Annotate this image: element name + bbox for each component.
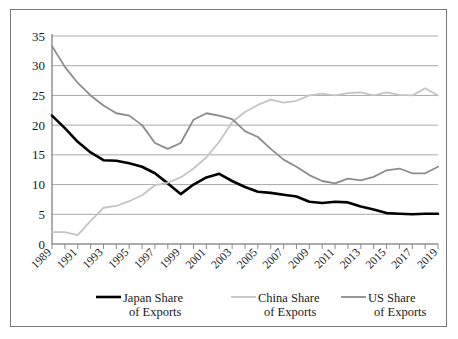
x-axis-tick-label: 2011 — [312, 246, 337, 271]
x-axis-tick-label: 1993 — [80, 246, 105, 271]
line-chart: 0510152025303519891991199319951997199920… — [11, 10, 446, 326]
y-axis-tick-label: 20 — [32, 118, 45, 133]
x-axis-tick-label: 1991 — [54, 246, 79, 271]
x-axis-tick-label: 2013 — [337, 246, 362, 271]
y-axis-tick-label: 35 — [32, 29, 45, 44]
chart-legend: Japan Shareof ExportsChina Shareof Expor… — [96, 291, 427, 320]
y-axis-tick-label: 10 — [32, 177, 45, 192]
y-axis-tick-label: 25 — [32, 88, 45, 103]
x-axis-tick-label: 1999 — [157, 246, 182, 271]
legend-label-line2-3: of Exports — [374, 305, 427, 319]
y-axis-tick-label: 5 — [39, 207, 46, 222]
x-axis-tick-label: 2003 — [209, 246, 234, 271]
x-axis-tick-label: 2015 — [363, 246, 388, 271]
x-axis-tick-label: 2005 — [235, 246, 260, 271]
x-axis-tick-label: 1997 — [132, 246, 157, 271]
legend-label-line1-2: China Share — [258, 291, 320, 305]
chart-figure: 0510152025303519891991199319951997199920… — [10, 9, 447, 327]
legend-label-line2-2: of Exports — [264, 305, 317, 319]
x-axis-tick-label: 2007 — [260, 246, 285, 271]
series-line-3 — [52, 46, 438, 183]
x-axis-tick-label: 2001 — [183, 246, 208, 271]
y-axis-tick-label: 15 — [32, 147, 45, 162]
y-axis-tick-label: 30 — [32, 58, 45, 73]
x-axis-tick-label: 1989 — [29, 246, 54, 271]
x-axis-tick-label: 2017 — [389, 246, 414, 271]
legend-label-line1-3: US Share — [368, 291, 416, 305]
gridlines — [52, 36, 438, 244]
x-axis-tick-label: 2019 — [415, 246, 440, 271]
x-axis-tick-label: 2009 — [286, 246, 311, 271]
legend-label-line2-1: of Exports — [129, 305, 182, 319]
legend-label-line1-1: Japan Share — [123, 291, 183, 305]
x-axis-tick-label: 1995 — [106, 246, 131, 271]
